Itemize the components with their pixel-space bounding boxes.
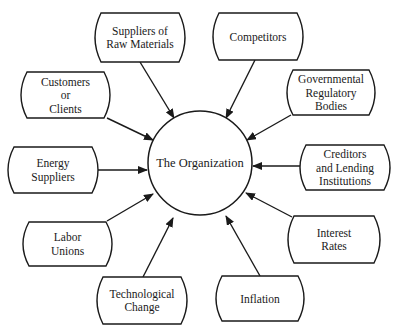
node-label-line: Suppliers	[31, 171, 75, 184]
arrow-suppliers-raw-materials	[140, 62, 174, 118]
organization-label: The Organization	[156, 156, 244, 170]
arrow-customers-clients	[107, 118, 153, 140]
node-labor-unions: LaborUnions	[23, 222, 112, 266]
node-label-line: Energy	[36, 157, 69, 170]
node-label-line: Inflation	[240, 293, 280, 305]
node-label-line: Institutions	[319, 175, 371, 187]
node-label-line: or	[61, 89, 71, 101]
node-creditors-lending-institutions: Creditorsand LendingInstitutions	[300, 145, 390, 190]
node-interest-rates: InterestRates	[288, 216, 380, 263]
node-label-line: Creditors	[324, 148, 367, 160]
node-label-line: Competitors	[230, 31, 287, 44]
node-label-line: Unions	[51, 245, 85, 257]
node-technological-change: TechnologicalChange	[97, 277, 187, 324]
arrow-technological-change	[143, 218, 173, 277]
node-competitors: Competitors	[213, 13, 303, 60]
node-label-line: Rates	[321, 240, 347, 252]
organization-environment-diagram: Suppliers ofRaw MaterialsCompetitorsCust…	[0, 0, 397, 330]
arrow-interest-rates	[246, 193, 292, 217]
node-label-line: Interest	[317, 227, 352, 239]
node-label-line: Bodies	[315, 100, 347, 112]
node-label-line: Customers	[41, 76, 91, 88]
node-label-line: Clients	[49, 103, 82, 115]
arrow-governmental-regulatory-bodies	[247, 115, 291, 140]
node-suppliers-raw-materials: Suppliers ofRaw Materials	[95, 13, 185, 62]
node-governmental-regulatory-bodies: GovernmentalRegulatoryBodies	[287, 70, 375, 115]
node-label-line: Raw Materials	[106, 38, 174, 50]
node-inflation: Inflation	[216, 276, 304, 321]
node-energy-suppliers: EnergySuppliers	[8, 147, 98, 193]
node-customers-clients: CustomersorClients	[21, 72, 110, 118]
arrow-competitors	[226, 60, 255, 118]
node-label-line: Labor	[54, 231, 82, 243]
node-label-line: Governmental	[298, 73, 364, 85]
node-label-line: Change	[124, 301, 159, 314]
node-label-line: Technological	[110, 288, 175, 301]
arrow-labor-unions	[107, 194, 153, 221]
node-label-line: Suppliers of	[112, 25, 168, 38]
node-label-line: Regulatory	[305, 87, 356, 100]
arrow-inflation	[226, 216, 260, 276]
center-node: The Organization	[148, 111, 252, 215]
node-label-line: and Lending	[316, 162, 374, 175]
